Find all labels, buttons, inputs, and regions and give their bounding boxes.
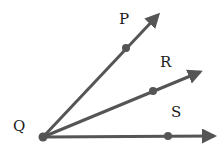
label-q: Q [13,117,25,135]
ray-qs [43,136,214,137]
label-r: R [160,53,172,71]
vertex-point-q [39,133,48,142]
angle-diagram: Q P R S [0,0,224,151]
point-r [149,87,157,95]
ray-qp [43,15,158,137]
point-p [122,44,130,52]
point-s [164,132,172,140]
label-s: S [171,103,181,121]
label-p: P [119,10,129,28]
